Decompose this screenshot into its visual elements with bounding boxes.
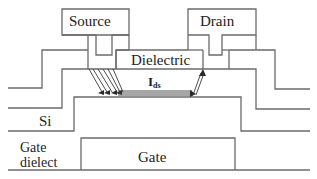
gate-dielectric-label-line1: Gate [20, 140, 46, 155]
si-label: Si [39, 114, 52, 129]
current-subscript: ds [153, 81, 161, 90]
current-ids-label: Ids [148, 74, 161, 93]
drain-label: Drain [200, 14, 234, 29]
gate-dielectric-label-line2: dielect [20, 155, 57, 170]
dielectric-label: Dielectric [131, 53, 190, 68]
source-label: Source [69, 14, 111, 29]
gate-label: Gate [138, 150, 166, 165]
transistor-cross-section-diagram: Source Drain Dielectric Ids Si Gate diel… [0, 0, 317, 179]
si-layer [8, 97, 310, 131]
